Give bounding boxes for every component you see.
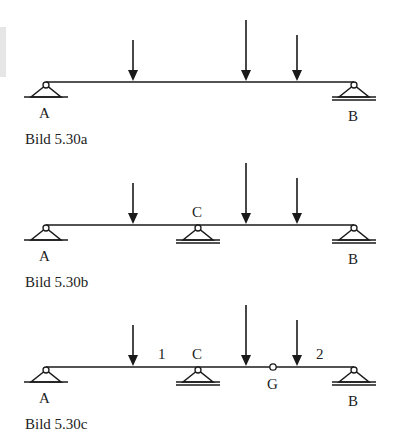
- figure-caption-c: Bild 5.30c: [25, 417, 88, 432]
- load-arrow-icon: [241, 305, 251, 366]
- hinge-g-icon: [270, 364, 276, 370]
- support-label-c: C: [192, 205, 202, 220]
- support-a-icon: [24, 225, 68, 240]
- support-label-b: B: [348, 252, 358, 267]
- figure-caption-b: Bild 5.30b: [25, 275, 88, 290]
- support-b-icon: [332, 225, 376, 243]
- beam-diagram-c: [24, 305, 376, 385]
- support-label-a: A: [39, 391, 50, 406]
- support-label-a: A: [39, 106, 50, 121]
- figure-caption-a: Bild 5.30a: [25, 132, 88, 147]
- arrow-head: [292, 213, 302, 224]
- support-label-b: B: [348, 109, 358, 124]
- pin-joint-icon: [351, 82, 357, 88]
- span-label-1: 1: [158, 347, 166, 362]
- support-b-icon: [332, 367, 376, 385]
- load-arrow-icon: [292, 178, 302, 224]
- arrow-head: [292, 355, 302, 366]
- arrow-head: [128, 213, 138, 224]
- span-label-2: 2: [316, 347, 324, 362]
- beam-diagram-b: [24, 163, 376, 243]
- load-arrow-icon: [128, 40, 138, 81]
- pin-joint-icon: [195, 367, 201, 373]
- support-label-c: C: [192, 347, 202, 362]
- arrow-head: [241, 213, 251, 224]
- support-label-b: B: [348, 394, 358, 409]
- support-a-icon: [24, 82, 68, 97]
- load-arrow-icon: [241, 163, 251, 224]
- pin-joint-icon: [43, 225, 49, 231]
- pin-joint-icon: [351, 367, 357, 373]
- pin-joint-icon: [43, 367, 49, 373]
- load-arrow-icon: [128, 325, 138, 366]
- pin-joint-icon: [195, 225, 201, 231]
- support-a-icon: [24, 367, 68, 382]
- load-arrow-icon: [292, 35, 302, 81]
- support-label-a: A: [39, 249, 50, 264]
- arrow-head: [128, 70, 138, 81]
- arrow-head: [128, 355, 138, 366]
- hinge-label-g: G: [267, 377, 278, 392]
- load-arrow-icon: [292, 320, 302, 366]
- arrow-head: [241, 70, 251, 81]
- pin-joint-icon: [43, 82, 49, 88]
- beam-diagram-a: [24, 20, 376, 100]
- arrow-head: [292, 70, 302, 81]
- support-c-icon: [176, 367, 220, 385]
- arrow-head: [241, 355, 251, 366]
- support-c-icon: [176, 225, 220, 243]
- load-arrow-icon: [241, 20, 251, 81]
- load-arrow-icon: [128, 183, 138, 224]
- support-b-icon: [332, 82, 376, 100]
- pin-joint-icon: [351, 225, 357, 231]
